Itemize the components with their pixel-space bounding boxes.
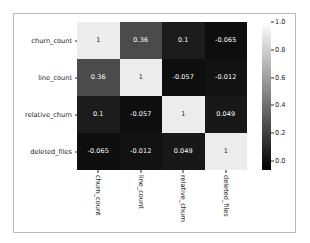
x-axis-tick-label: churn_count xyxy=(94,175,102,216)
x-axis-tick-label: deleted_files xyxy=(222,175,230,217)
heatmap-cell-value: 0.049 xyxy=(174,148,193,155)
x-axis-tick-mark xyxy=(140,170,141,173)
heatmap-cell: 1 xyxy=(77,22,120,59)
heatmap-cell: -0.057 xyxy=(162,59,205,96)
heatmap-cell: -0.012 xyxy=(120,133,163,170)
heatmap-cell-value: 1 xyxy=(224,148,228,155)
heatmap-cell-value: -0.065 xyxy=(215,37,237,44)
heatmap-cell: 0.36 xyxy=(77,59,120,96)
heatmap-cell-value: -0.057 xyxy=(130,111,152,118)
colorbar-tick-label: 0.2 xyxy=(271,129,286,137)
heatmap-grid: 10.360.1-0.0650.361-0.057-0.0120.1-0.057… xyxy=(77,22,247,170)
heatmap-cell: 0.049 xyxy=(205,96,248,133)
heatmap-cell-value: 1 xyxy=(181,111,185,118)
x-axis-tick-label: line_count xyxy=(137,175,145,209)
y-axis-tick-label: deleted_files xyxy=(30,148,77,156)
heatmap-cell-value: -0.012 xyxy=(215,74,237,81)
heatmap-axes: 10.360.1-0.0650.361-0.057-0.0120.1-0.057… xyxy=(77,22,247,170)
heatmap-cell: -0.065 xyxy=(205,22,248,59)
colorbar-tick-label: 0.6 xyxy=(271,74,286,82)
heatmap-cell: 0.1 xyxy=(77,96,120,133)
heatmap-cell: 1 xyxy=(205,133,248,170)
colorbar-tick-label: 1.0 xyxy=(271,18,286,26)
heatmap-cell-value: 0.36 xyxy=(91,74,106,81)
colorbar: 1.00.80.60.40.20.0 xyxy=(262,22,271,170)
colorbar-tick-label: 0.8 xyxy=(271,46,286,54)
heatmap-cell-value: 0.049 xyxy=(216,111,235,118)
heatmap-cell-value: -0.012 xyxy=(130,148,152,155)
x-axis-tick-label: relative_churn xyxy=(179,175,187,222)
x-axis-tick-mark xyxy=(183,170,184,173)
heatmap-cell-value: 1 xyxy=(96,37,100,44)
heatmap-cell: 1 xyxy=(120,59,163,96)
heatmap-cell-value: 1 xyxy=(139,74,143,81)
heatmap-cell: 0.1 xyxy=(162,22,205,59)
heatmap-cell: 0.36 xyxy=(120,22,163,59)
heatmap-cell: -0.065 xyxy=(77,133,120,170)
colorbar-gradient xyxy=(262,22,271,170)
x-axis-tick-mark xyxy=(98,170,99,173)
x-axis-tick-mark xyxy=(225,170,226,173)
heatmap-cell-value: 0.1 xyxy=(93,111,104,118)
colorbar-tick-label: 0.0 xyxy=(271,157,286,165)
heatmap-cell: -0.057 xyxy=(120,96,163,133)
figure-canvas: 10.360.1-0.0650.361-0.057-0.0120.1-0.057… xyxy=(0,0,310,243)
heatmap-cell: 1 xyxy=(162,96,205,133)
heatmap-cell-value: -0.065 xyxy=(87,148,109,155)
y-axis-tick-label: relative_churn xyxy=(25,111,77,119)
colorbar-tick-label: 0.4 xyxy=(271,101,286,109)
heatmap-cell: 0.049 xyxy=(162,133,205,170)
heatmap-cell-value: -0.057 xyxy=(172,74,194,81)
heatmap-cell: -0.012 xyxy=(205,59,248,96)
heatmap-cell-value: 0.36 xyxy=(133,37,148,44)
y-axis-tick-label: line_count xyxy=(38,74,77,82)
heatmap-cell-value: 0.1 xyxy=(178,37,189,44)
y-axis-tick-label: churn_count xyxy=(31,37,77,45)
